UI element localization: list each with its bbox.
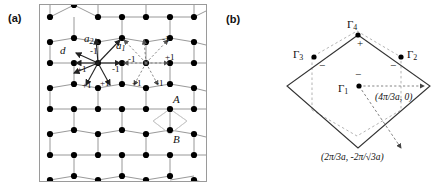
- panel-b: (b) Γ4 +: [215, 0, 443, 189]
- point-gamma3: [311, 54, 316, 59]
- vector-label-a1: a1: [116, 39, 125, 53]
- hopping-sign-6: +1: [165, 53, 175, 62]
- gamma3-label: Γ3: [293, 48, 303, 62]
- hopping-sign-2: -1: [90, 47, 98, 56]
- honeycomb-lattice-diagram: [40, 5, 206, 181]
- vector-label-d: d: [60, 44, 66, 56]
- hopping-sign-7: -1: [162, 35, 170, 44]
- vector-label-a2: a2: [84, 32, 93, 46]
- gamma4-parity: +: [357, 38, 363, 49]
- hopping-sign-5: -1: [128, 55, 136, 64]
- gamma1-parity: −: [355, 69, 361, 80]
- figure-root: (a): [0, 0, 443, 189]
- lattice-frame: a2 a1 d +1 -1 -1 +1 +1 -1 +1 -1 +1 -1 A …: [39, 4, 207, 182]
- hopping-sign-3: +1: [100, 79, 110, 88]
- gamma4-label: Γ4: [347, 18, 357, 32]
- hopping-sign-8: +1: [132, 79, 142, 88]
- gamma2-label: Γ2: [407, 48, 417, 62]
- hopping-sign-0: +1: [77, 65, 87, 74]
- hopping-sign-1: -1: [112, 65, 120, 74]
- point-gamma1: [356, 83, 361, 88]
- point-gamma2: [398, 54, 403, 59]
- k-point-label-lower: (2π/3a, -2π/√3a): [321, 152, 384, 162]
- panel-a: (a): [0, 0, 215, 189]
- sublattice-label-B: B: [173, 133, 180, 145]
- gamma2-parity: −: [390, 60, 396, 71]
- hopping-sign-4: +1: [82, 81, 92, 90]
- panel-a-label: (a): [8, 12, 21, 24]
- sublattice-label-A: A: [173, 93, 180, 105]
- gamma3-parity: −: [319, 60, 325, 71]
- gamma1-label: Γ1: [338, 82, 348, 96]
- k-point-label-right: (4π/3a, 0): [375, 92, 412, 102]
- hopping-sign-9: -1: [156, 79, 164, 88]
